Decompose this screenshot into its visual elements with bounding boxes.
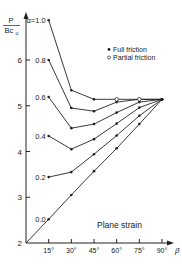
full-friction-point-icon (138, 115, 141, 118)
full-friction-point-icon (138, 123, 141, 126)
axes: 2345615°30°45°60°75°90°βPBcu (3, 12, 180, 255)
legend-entry-label: Full friction (113, 46, 147, 53)
full-friction-point-icon (70, 89, 73, 92)
series-label: 0.6 (35, 93, 45, 102)
series-line (49, 99, 162, 177)
full-friction-point-icon (161, 98, 164, 101)
full-friction-point-icon (70, 194, 73, 197)
series-label: 0.2 (35, 173, 45, 182)
full-friction-point-icon (138, 106, 141, 109)
full-friction-point-icon (93, 123, 96, 126)
y-axis-label-numerator: P (8, 16, 13, 25)
full-friction-point-icon (47, 135, 50, 138)
full-friction-point-icon (70, 171, 73, 174)
y-tick-label: 4 (18, 148, 23, 157)
full-friction-point-icon (115, 147, 118, 150)
legend-open-circle-icon (108, 56, 111, 59)
full-friction-point-icon (70, 148, 73, 151)
legend-entry-label: Partial friction (113, 54, 156, 61)
full-friction-point-icon (70, 107, 73, 110)
full-friction-point-icon (47, 176, 50, 179)
full-friction-point-icon (93, 153, 96, 156)
partial-friction-point-icon (115, 98, 119, 102)
partial-friction-point-icon (138, 98, 142, 102)
x-axis-label: β (174, 246, 180, 255)
full-friction-point-icon (47, 59, 50, 62)
full-friction-point-icon (93, 98, 96, 101)
x-axis-arrow-icon (167, 241, 174, 246)
legend-filled-circle-icon (108, 48, 111, 51)
series-line (49, 60, 162, 111)
x-tick-label: 90° (157, 247, 168, 254)
y-axis-label-denominator: Bc (5, 26, 14, 35)
full-friction-point-icon (47, 218, 50, 221)
plane-strain-annotation: Plane strain (97, 220, 142, 230)
full-friction-point-icon (93, 170, 96, 173)
full-friction-point-icon (93, 110, 96, 113)
y-tick-label: 6 (18, 56, 23, 65)
x-tick-label: 45° (89, 247, 100, 254)
series-line (49, 97, 162, 128)
legend: Full frictionPartial friction (108, 46, 156, 61)
full-friction-point-icon (47, 96, 50, 99)
series-label: 0.8 (35, 56, 45, 65)
x-tick-label: 15° (43, 247, 54, 254)
x-tick-label: 60° (111, 247, 122, 254)
series-label: α=1.0 (27, 16, 46, 25)
x-tick-label: 30° (66, 247, 77, 254)
y-tick-label: 3 (18, 193, 23, 202)
full-friction-point-icon (93, 138, 96, 141)
series-label: 0.4 (35, 132, 45, 141)
y-axis-label-subscript: u (16, 30, 19, 36)
y-tick-label: 5 (18, 102, 23, 111)
full-friction-point-icon (47, 19, 50, 22)
y-tick-label: 2 (18, 239, 23, 248)
chart: 2345615°30°45°60°75°90°βPBcu α=1.00.80.6… (0, 0, 182, 266)
full-friction-point-icon (70, 127, 73, 130)
full-friction-point-icon (115, 111, 118, 114)
x-tick-label: 75° (134, 247, 145, 254)
full-friction-point-icon (115, 122, 118, 125)
series-label: 0.0 (35, 215, 45, 224)
full-friction-point-icon (115, 134, 118, 137)
